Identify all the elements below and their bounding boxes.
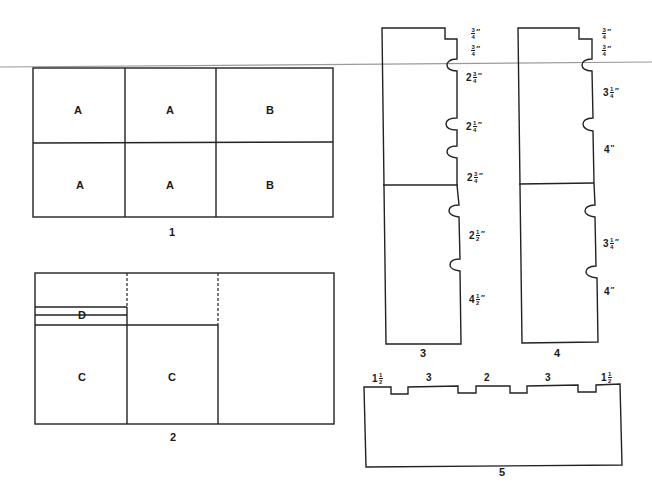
dimension-label: 3 14 ″ — [603, 86, 619, 99]
diagram-2-outline — [35, 273, 334, 424]
dimension-label: 1 12 — [372, 372, 383, 385]
dimension-label: 34 ″ — [601, 44, 611, 57]
dimension-label: 4 ″ — [604, 287, 614, 297]
dimension-label: 34 ″ — [470, 27, 480, 40]
scan-line — [0, 62, 652, 67]
diagram-4: 4 — [518, 28, 598, 359]
dimension-label: 3 — [545, 373, 551, 383]
cell-label: B — [266, 104, 274, 116]
cell-label: A — [166, 104, 174, 116]
diagram-3-outline — [382, 28, 461, 344]
dimension-label: 2 12 ″ — [469, 229, 485, 242]
dimension-label: 2 14 ″ — [466, 120, 482, 133]
diagram-4-outline — [518, 28, 598, 343]
diagram-2: D C C 2 — [35, 273, 334, 443]
dimension-label: 2 34 ″ — [466, 71, 482, 84]
dimension-label: 2 — [484, 373, 490, 383]
diagram-2-caption: 2 — [170, 431, 176, 443]
diagram-1-caption: 1 — [169, 226, 175, 238]
dimension-label: 2 34 ″ — [467, 171, 483, 184]
label-c: C — [168, 371, 176, 383]
dimension-label: 4 ″ — [604, 145, 614, 155]
diagram-1: A A B A A B 1 — [33, 68, 333, 238]
label-d: D — [78, 309, 86, 321]
diagram-5-outline — [364, 384, 622, 467]
diagram-5-caption: 5 — [499, 466, 505, 478]
dimension-label: 3 14 ″ — [603, 237, 619, 250]
label-c: C — [78, 371, 86, 383]
woodworking-plan-figure: A A B A A B 1 D C C 2 3 4 5 — [0, 0, 652, 497]
dimension-label: 34 ″ — [601, 27, 611, 40]
dimension-label: 3 — [426, 373, 432, 383]
dimension-label: 1 12 — [601, 371, 612, 384]
cell-label: A — [166, 179, 174, 191]
diagram-3: 3 — [382, 28, 461, 359]
diagram-3-caption: 3 — [420, 347, 426, 359]
diagram-5: 5 — [364, 384, 622, 478]
cell-label: A — [74, 104, 82, 116]
dimension-label: 4 12 ″ — [469, 293, 485, 306]
dimension-label: 34 ″ — [470, 44, 480, 57]
cell-label: B — [266, 179, 274, 191]
cell-label: A — [76, 179, 84, 191]
diagram-4-caption: 4 — [554, 347, 561, 359]
